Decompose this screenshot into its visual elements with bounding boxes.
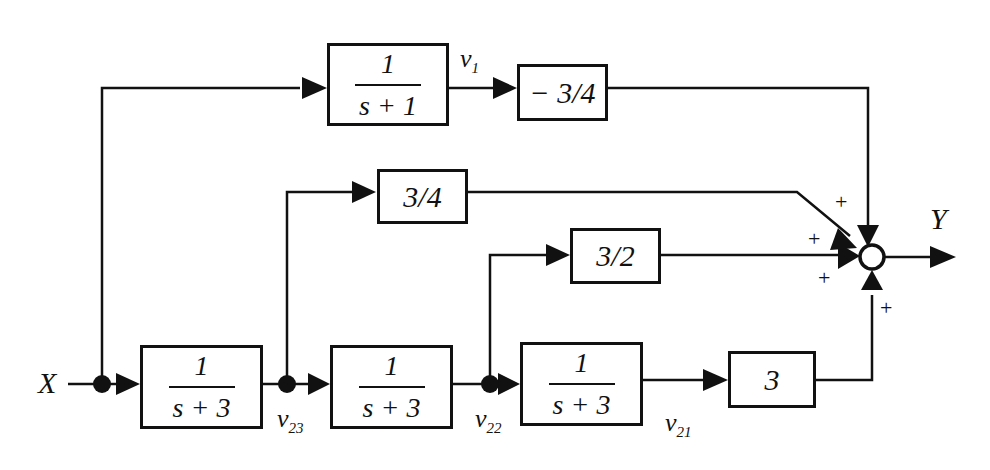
denominator: s + 3 (553, 385, 611, 419)
block-out-gain: 3 (728, 351, 816, 408)
numerator: 1 (575, 349, 589, 383)
denominator: s + 3 (173, 388, 231, 422)
arrowhead (302, 77, 327, 99)
gain-value: 3/4 (403, 180, 441, 214)
block-top-transfer-function: 1s + 1 (327, 43, 449, 126)
block-tf3: 1s + 3 (520, 342, 643, 426)
sign-plus-bottom: + (880, 295, 892, 321)
denominator: s + 3 (363, 388, 421, 422)
gain-value: − 3/4 (529, 76, 595, 110)
signal-v23: v23 (277, 404, 304, 437)
gain-value: 3 (765, 363, 780, 397)
sign-plus-left-upper: + (808, 226, 820, 252)
output-label: Y (930, 202, 947, 236)
block-top-gain: − 3/4 (517, 64, 608, 121)
input-label: X (38, 366, 56, 400)
block-tf1: 1s + 3 (140, 345, 263, 429)
block-low-gain: 3/2 (570, 228, 661, 284)
signal-v21: v21 (665, 408, 692, 441)
numerator: 1 (385, 352, 399, 386)
block-mid-gain: 3/4 (377, 169, 468, 224)
block-tf2: 1s + 3 (330, 345, 453, 429)
sign-plus-left-lower: + (818, 265, 830, 291)
numerator: 1 (381, 50, 395, 84)
sign-plus-top: + (835, 189, 847, 215)
numerator: 1 (195, 352, 209, 386)
signal-v22: v22 (475, 404, 502, 437)
signal-v1: v1 (460, 44, 479, 77)
gain-value: 3/2 (596, 239, 634, 273)
summing-junction (860, 245, 884, 269)
denominator: s + 1 (359, 86, 417, 120)
